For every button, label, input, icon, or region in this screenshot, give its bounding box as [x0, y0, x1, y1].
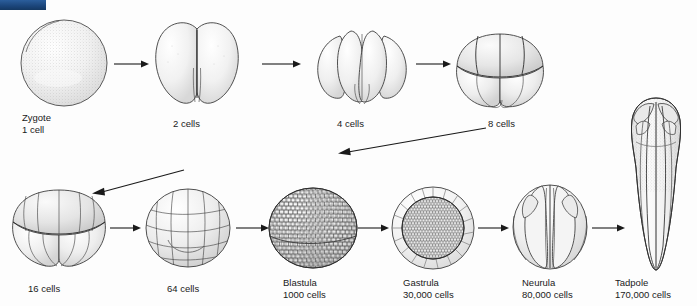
corner-color-bar: [0, 0, 46, 10]
caption-neurula-count: 80,000 cells: [522, 289, 573, 301]
stage-illustration-neurula: [508, 182, 592, 272]
arrow-4-to-8-cells: [416, 58, 452, 70]
caption-neurula: Neurula 80,000 cells: [522, 277, 573, 300]
caption-blastula: Blastula 1000 cells: [283, 277, 326, 300]
caption-2-cells-name: 2 cells: [173, 118, 200, 129]
caption-blastula-name: Blastula: [283, 277, 317, 288]
caption-64-cells: 64 cells: [167, 283, 199, 295]
arrow-gastrula-to-neurula: [478, 222, 510, 234]
caption-gastrula: Gastrula 30,000 cells: [403, 277, 454, 300]
caption-blastula-count: 1000 cells: [283, 289, 326, 301]
caption-16-cells: 16 cells: [28, 283, 60, 295]
caption-tadpole: Tadpole 170,000 cells: [615, 277, 671, 300]
stage-illustration-zygote: [14, 18, 116, 110]
arrow-neurula-to-tadpole: [592, 222, 626, 234]
arrow-zygote-to-2-cells: [114, 58, 150, 70]
stage-illustration-64-cells: [138, 184, 238, 270]
stage-illustration-2-cells: [150, 20, 246, 112]
stage-illustration-blastula: [266, 186, 360, 270]
stage-illustration-tadpole: [624, 96, 688, 272]
caption-zygote-name: Zygote: [22, 112, 51, 123]
caption-2-cells: 2 cells: [173, 118, 200, 130]
caption-8-cells: 8 cells: [488, 118, 515, 130]
stage-illustration-gastrula: [386, 186, 480, 270]
caption-64-cells-name: 64 cells: [167, 283, 199, 294]
caption-tadpole-name: Tadpole: [615, 277, 648, 288]
embryo-development-diagram: Zygote 1 cell 2: [0, 0, 697, 306]
arrow-64-to-blastula: [236, 222, 270, 234]
caption-8-cells-name: 8 cells: [488, 118, 515, 129]
caption-tadpole-count: 170,000 cells: [615, 289, 671, 301]
caption-zygote-count: 1 cell: [22, 124, 51, 136]
stage-illustration-4-cells: [310, 22, 414, 112]
caption-zygote: Zygote 1 cell: [22, 112, 51, 135]
caption-neurula-name: Neurula: [522, 277, 555, 288]
stage-illustration-16-cells: [6, 182, 112, 268]
stage-illustration-8-cells: [448, 22, 552, 114]
arrow-2-to-4-cells: [262, 58, 302, 70]
caption-16-cells-name: 16 cells: [28, 283, 60, 294]
caption-gastrula-count: 30,000 cells: [403, 289, 454, 301]
arrow-8-cells-to-next-row: [336, 126, 488, 158]
caption-gastrula-name: Gastrula: [403, 277, 439, 288]
